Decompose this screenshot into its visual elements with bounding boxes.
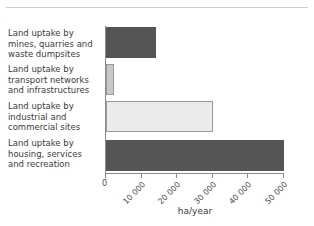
category-label-mines-quarries: Land uptake by mines, quarries and waste… bbox=[8, 28, 103, 60]
bar-transport-networks[interactable] bbox=[106, 64, 114, 95]
category-label-line: Land uptake by bbox=[8, 138, 103, 149]
category-label-industrial-commercial: Land uptake by industrial and commercial… bbox=[8, 101, 103, 133]
x-axis-title: ha/year bbox=[105, 206, 285, 216]
category-label-line: and recreation bbox=[8, 159, 103, 170]
category-label-line: Land uptake by bbox=[8, 64, 103, 75]
category-label-line: mines, quarries and bbox=[8, 39, 103, 50]
category-label-line: Land uptake by bbox=[8, 28, 103, 39]
plot-area: 0 10 000 20 000 30 000 40 000 50 000 bbox=[105, 26, 284, 173]
x-axis-tick bbox=[176, 174, 177, 178]
x-axis-line bbox=[105, 173, 284, 174]
x-axis-tick-label: 50 000 bbox=[263, 180, 289, 206]
category-label-line: industrial and bbox=[8, 112, 103, 123]
x-axis-tick bbox=[247, 174, 248, 178]
x-axis-tick-label: 30 000 bbox=[192, 180, 218, 206]
x-axis-tick-label: 10 000 bbox=[121, 180, 147, 206]
x-axis-tick bbox=[212, 174, 213, 178]
bar-housing-services[interactable] bbox=[106, 140, 284, 171]
category-label-line: waste dumpsites bbox=[8, 49, 103, 60]
x-axis-tick-label: 20 000 bbox=[156, 180, 182, 206]
category-label-transport-networks: Land uptake by transport networks and in… bbox=[8, 64, 103, 96]
top-divider-rule bbox=[6, 7, 308, 8]
x-axis-tick-label: 0 bbox=[102, 179, 107, 188]
category-label-housing-services: Land uptake by housing, services and rec… bbox=[8, 138, 103, 170]
bar-industrial-commercial[interactable] bbox=[106, 101, 213, 132]
x-axis-tick-label: 40 000 bbox=[227, 180, 253, 206]
bar-mines-quarries[interactable] bbox=[106, 27, 156, 58]
category-label-line: commercial sites bbox=[8, 122, 103, 133]
category-label-line: transport networks bbox=[8, 75, 103, 86]
x-axis-tick bbox=[141, 174, 142, 178]
category-label-line: housing, services bbox=[8, 149, 103, 160]
bar-chart-figure: Land uptake by mines, quarries and waste… bbox=[0, 0, 314, 226]
category-label-line: Land uptake by bbox=[8, 101, 103, 112]
x-axis-tick bbox=[283, 174, 284, 178]
category-label-line: and infrastructures bbox=[8, 85, 103, 96]
x-axis-tick bbox=[105, 174, 106, 178]
